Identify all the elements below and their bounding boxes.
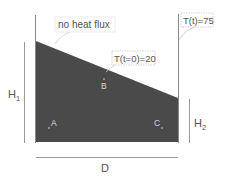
callout-boundary-temperature: T(t)=75 (179, 13, 214, 40)
callout-no-heat-flux-text: no heat flux (58, 19, 110, 30)
h2-label: H2 (194, 117, 206, 132)
d-label: D (101, 162, 109, 174)
callout-no-heat-flux: no heat flux (55, 17, 115, 44)
point-b-label: B (101, 81, 107, 91)
point-b: B (101, 78, 107, 91)
diagram-canvas: no heat flux T(t=0)=20 T(t)=75 H1 H2 D A… (0, 0, 228, 178)
point-a-label: A (51, 118, 57, 128)
callout-initial-temperature: T(t=0)=20 (106, 51, 156, 72)
callout-initial-temperature-text: T(t=0)=20 (114, 53, 156, 64)
h1-label: H1 (8, 88, 20, 103)
point-c-label: C (154, 118, 160, 128)
callout-boundary-temperature-text: T(t)=75 (183, 15, 214, 26)
